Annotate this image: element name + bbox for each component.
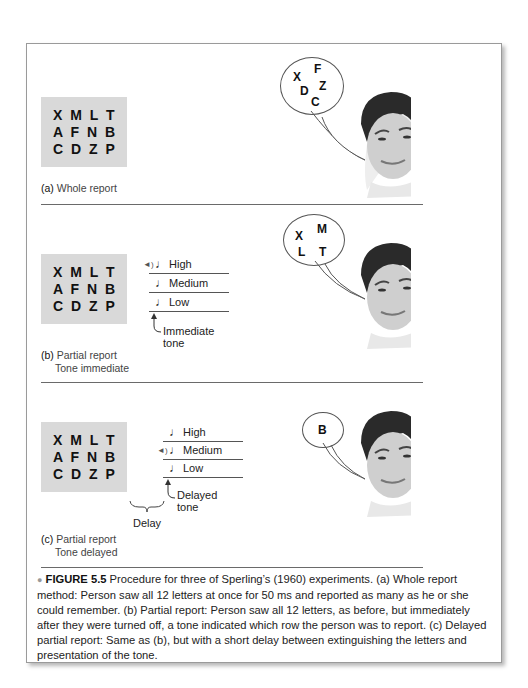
grid-row: X M L T	[53, 264, 115, 280]
grid-row: A F N B	[53, 124, 115, 140]
person-face-illustration	[271, 383, 411, 543]
immediate-tone-label: Immediate tone	[163, 325, 214, 349]
caption-text: Tone immediate	[41, 362, 129, 374]
tone-label: Low	[183, 462, 203, 474]
music-note-icon: ♩	[169, 443, 181, 457]
letter-grid: X M L T A F N B C D Z P	[41, 422, 127, 492]
tone-medium: ♩ Medium	[149, 275, 229, 293]
delayed-tone-label: Delayed tone	[177, 489, 217, 513]
music-note-icon: ♩	[155, 276, 167, 290]
divider	[41, 204, 423, 205]
tone-label: High	[169, 258, 192, 270]
panel-caption: (a) Whole report	[41, 182, 117, 195]
caption-label: (b)	[41, 349, 54, 361]
grid-row: C D Z P	[53, 298, 115, 314]
music-note-icon: ♩	[169, 461, 181, 475]
grid-row: C D Z P	[53, 141, 115, 157]
panel-b: X M L T A F N B C D Z P ◄) ♩ High ♩ Medi…	[27, 209, 501, 384]
tone-low: ♩ Low	[163, 460, 243, 478]
grid-row: C D Z P	[53, 466, 115, 482]
caption-text: Tone delayed	[41, 546, 117, 558]
letter-grid: X M L T A F N B C D Z P	[41, 97, 127, 167]
speaker-icon: ◄)	[143, 260, 154, 269]
figure-frame: X M L T A F N B C D Z P (a) Whole report…	[26, 43, 502, 663]
person-face-illustration	[271, 64, 411, 224]
person-face-illustration	[271, 215, 411, 375]
tone-label: Medium	[169, 277, 208, 289]
figure-caption: ● FIGURE 5.5 Procedure for three of Sper…	[37, 572, 493, 663]
music-note-icon: ♩	[155, 257, 167, 271]
caption-text: Partial report	[57, 349, 117, 361]
caption-label: (c)	[41, 533, 53, 545]
tone-label: High	[183, 426, 206, 438]
panel-caption: (b) Partial report Tone immediate	[41, 349, 129, 375]
music-note-icon: ♩	[155, 295, 167, 309]
tone-label: Medium	[183, 444, 222, 456]
tone-low: ♩ Low	[149, 294, 229, 312]
panel-c: X M L T A F N B C D Z P ♩ High ◄) ♩ Medi…	[27, 389, 501, 569]
grid-row: A F N B	[53, 449, 115, 465]
caption-label: (a)	[41, 182, 54, 194]
grid-row: X M L T	[53, 107, 115, 123]
panel-a: X M L T A F N B C D Z P (a) Whole report…	[27, 44, 501, 204]
caption-text: Whole report	[57, 182, 117, 194]
grid-row: X M L T	[53, 432, 115, 448]
figure-caption-text: Procedure for three of Sperling’s (1960)…	[37, 573, 486, 661]
bullet-icon: ●	[37, 575, 42, 585]
figure-label: FIGURE 5.5	[46, 573, 107, 585]
music-note-icon: ♩	[169, 425, 181, 439]
panel-caption: (c) Partial report Tone delayed	[41, 533, 117, 559]
tone-high: ◄) ♩ High	[149, 256, 229, 274]
tone-high: ♩ High	[163, 424, 243, 442]
divider	[41, 567, 423, 568]
delay-label: Delay	[133, 517, 161, 529]
caption-text: Partial report	[56, 533, 116, 545]
tone-medium: ◄) ♩ Medium	[163, 442, 243, 460]
grid-row: A F N B	[53, 281, 115, 297]
delay-brace-icon	[129, 500, 165, 514]
tone-label: Low	[169, 296, 189, 308]
letter-grid: X M L T A F N B C D Z P	[41, 254, 127, 324]
speaker-icon: ◄)	[157, 446, 168, 455]
